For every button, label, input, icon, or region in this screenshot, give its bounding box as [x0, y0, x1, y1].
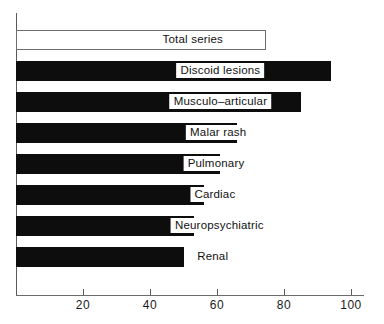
bar-row: Malar rash: [16, 123, 364, 143]
bar-label: Total series: [159, 32, 228, 47]
bar-label: Neuropsychiatric: [171, 218, 268, 233]
x-tick-label-40: 40: [143, 298, 157, 312]
bar-label: Musculo–articular: [170, 94, 272, 109]
bar-row: Cardiac: [16, 185, 364, 205]
bar-label: Malar rash: [186, 125, 250, 140]
bar-row: Pulmonary: [16, 154, 364, 174]
x-tick-label-60: 60: [210, 298, 224, 312]
bar-label: Renal: [193, 249, 232, 264]
bar-label: Cardiac: [190, 187, 239, 202]
x-tick-label-20: 20: [76, 298, 90, 312]
bar-chart: 20406080100 Total seriesDiscoid lesionsM…: [0, 0, 384, 324]
x-tick-label-80: 80: [277, 298, 291, 312]
bar-row: Renal: [16, 247, 364, 267]
bar-cardiac: [16, 185, 204, 205]
bar-label: Pulmonary: [184, 156, 249, 171]
bar-row: Total series: [16, 30, 364, 50]
bar-label: Discoid lesions: [177, 63, 265, 78]
bar-row: Discoid lesions: [16, 61, 364, 81]
bar-total-series: [16, 30, 266, 50]
bar-neuropsychiatric: [16, 216, 194, 236]
plot-area: Total seriesDiscoid lesionsMusculo–artic…: [16, 13, 364, 296]
bar-discoid-lesions: [16, 61, 331, 81]
x-tick-label-100: 100: [340, 298, 362, 312]
bar-renal: [16, 247, 184, 267]
bar-row: Musculo–articular: [16, 92, 364, 112]
bar-row: Neuropsychiatric: [16, 216, 364, 236]
